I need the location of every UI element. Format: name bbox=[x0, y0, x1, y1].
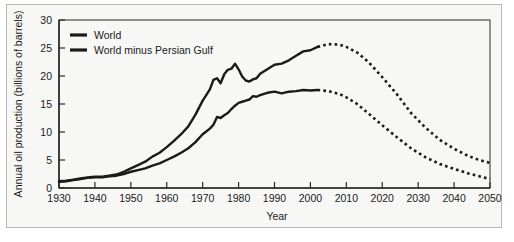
y-tick-label: 20 bbox=[40, 70, 52, 82]
x-tick-label: 1960 bbox=[155, 192, 179, 204]
y-axis-title: Annual oil production (billions of barre… bbox=[12, 11, 24, 198]
oil-production-figure: 051015202530 193019401950196019701980199… bbox=[0, 0, 514, 242]
x-tick-label: 2040 bbox=[442, 192, 466, 204]
y-tick-label: 5 bbox=[46, 154, 52, 166]
y-tick-label: 15 bbox=[40, 98, 52, 110]
series-line-history-1 bbox=[59, 90, 318, 182]
x-tick-label: 1930 bbox=[47, 192, 71, 204]
x-tick-label: 2050 bbox=[478, 192, 502, 204]
x-tick-label: 1950 bbox=[119, 192, 143, 204]
x-axis-title: Year bbox=[266, 210, 288, 222]
legend-label-0: World bbox=[94, 29, 121, 41]
x-tick-label: 1990 bbox=[263, 192, 287, 204]
x-tick-group: 1930194019501960197019801990200020102020… bbox=[47, 182, 502, 204]
chart-legend: WorldWorld minus Persian Gulf bbox=[70, 29, 213, 56]
legend-label-1: World minus Persian Gulf bbox=[94, 44, 213, 56]
x-tick-label: 2000 bbox=[299, 192, 323, 204]
y-tick-group: 051015202530 bbox=[40, 14, 65, 194]
series-line-projection-0 bbox=[318, 44, 490, 163]
x-tick-label: 2030 bbox=[406, 192, 430, 204]
y-tick-label: 10 bbox=[40, 126, 52, 138]
y-tick-label: 30 bbox=[40, 14, 52, 26]
x-tick-label: 1970 bbox=[191, 192, 215, 204]
y-tick-label: 25 bbox=[40, 42, 52, 54]
series-line-history-0 bbox=[59, 47, 318, 181]
oil-production-chart: 051015202530 193019401950196019701980199… bbox=[0, 0, 514, 242]
x-tick-label: 1980 bbox=[227, 192, 251, 204]
series-group bbox=[59, 44, 490, 182]
x-tick-label: 2010 bbox=[335, 192, 359, 204]
x-tick-label: 1940 bbox=[83, 192, 107, 204]
x-tick-label: 2020 bbox=[371, 192, 395, 204]
